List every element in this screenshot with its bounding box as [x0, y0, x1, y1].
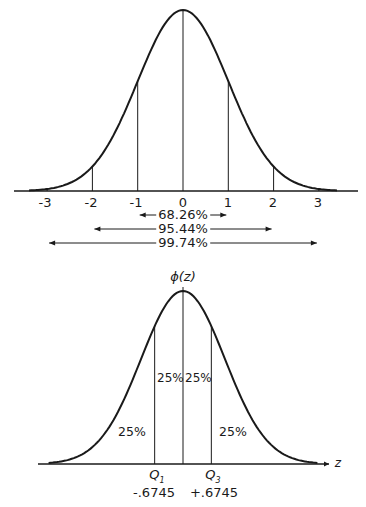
- range-label-3sd: 99.74%: [156, 236, 210, 250]
- region-label-upper-right: 25%: [185, 371, 212, 385]
- tick-label: 2: [269, 196, 277, 210]
- q3-letter: Q: [205, 467, 215, 482]
- tick-label: -2: [85, 196, 98, 210]
- range-label-1sd: 68.26%: [156, 208, 210, 222]
- tick-label: 3: [314, 196, 322, 210]
- y-axis-label: ϕ(z): [170, 270, 196, 284]
- region-label-left-tail: 25%: [118, 425, 146, 439]
- x-axis-label: z: [335, 456, 341, 470]
- region-label-right-tail: 25%: [219, 425, 247, 439]
- q1-letter: Q: [149, 467, 159, 482]
- q1-value: -.6745: [133, 486, 175, 500]
- q1-sub: 1: [160, 476, 165, 485]
- region-label-upper-left: 25%: [157, 371, 184, 385]
- tick-label: 1: [224, 196, 232, 210]
- q3-value: +.6745: [190, 486, 238, 500]
- normal-curves-svg: [0, 0, 366, 507]
- tick-label: -1: [130, 196, 143, 210]
- tick-label: -3: [39, 196, 52, 210]
- range-label-2sd: 95.44%: [156, 222, 210, 236]
- q3-sub: 3: [216, 476, 221, 485]
